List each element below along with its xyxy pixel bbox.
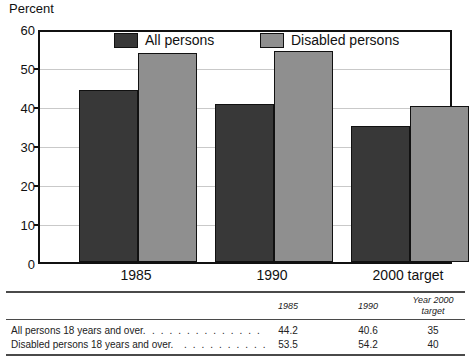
- table-column-header-year-2000-target-line2: target: [400, 306, 466, 317]
- x-tick-label-2000-target: 2000 target: [358, 266, 458, 284]
- table-column-header-1990: 1990: [338, 301, 398, 312]
- table-row-leader-disabled-persons: . . . . . . . . . .: [184, 338, 267, 352]
- table-rule-top: [6, 291, 465, 293]
- bar-all-persons-1985: [79, 90, 138, 262]
- table-row: Disabled persons 18 years and over. . . …: [0, 338, 471, 353]
- y-tick-label-40: 40: [9, 102, 35, 115]
- y-tick-label-30: 30: [9, 141, 35, 154]
- table-rule-middle: [6, 319, 465, 320]
- legend-swatch-disabled-persons: [260, 33, 284, 48]
- bar-all-persons-2000-target: [351, 126, 410, 262]
- x-tick-label-1985: 1985: [96, 266, 176, 284]
- y-tick-label-50: 50: [9, 63, 35, 76]
- y-tick-label-0: 0: [9, 258, 35, 271]
- y-tick-label-60: 60: [9, 24, 35, 37]
- bar-disabled-persons-1990: [274, 51, 333, 262]
- x-tick-label-1990: 1990: [232, 266, 312, 284]
- legend-label-all-persons: All persons: [145, 32, 214, 48]
- table-row-label-disabled-persons: Disabled persons 18 years and over.: [11, 338, 173, 352]
- y-tick-label-10: 10: [9, 219, 35, 232]
- table-row-label-all-persons: All persons 18 years and over.: [11, 324, 146, 338]
- data-table: 1985 1990 Year 2000 target All persons 1…: [0, 288, 471, 364]
- bars-layer: [40, 32, 450, 262]
- table-cell-disabled-persons-2000-target: 40: [400, 338, 466, 352]
- plot-area: [38, 30, 452, 264]
- table-rule-bottom: [6, 354, 465, 356]
- table-column-header-year-2000-target-line1: Year 2000: [400, 295, 466, 306]
- legend-label-disabled-persons: Disabled persons: [291, 32, 399, 48]
- table-column-header-1985: 1985: [258, 301, 318, 312]
- table-cell-disabled-persons-1985: 53.5: [258, 338, 318, 352]
- bar-disabled-persons-2000-target: [410, 106, 469, 262]
- table-cell-all-persons-1990: 40.6: [338, 324, 398, 338]
- bar-disabled-persons-1985: [138, 53, 197, 262]
- x-axis: 1985 1990 2000 target: [38, 266, 452, 288]
- table-row: All persons 18 years and over. . . . . .…: [0, 324, 471, 339]
- table-row-leader-all-persons: . . . . . . . . . . . . .: [152, 324, 261, 338]
- legend-swatch-all-persons: [114, 33, 138, 48]
- y-axis-title: Percent: [9, 2, 54, 16]
- legend-item-all-persons: All persons: [114, 32, 214, 48]
- table-cell-all-persons-2000-target: 35: [400, 324, 466, 338]
- bar-all-persons-1990: [215, 104, 274, 262]
- chart-legend: All persons Disabled persons: [38, 32, 452, 56]
- bar-chart-figure: Percent 60 50 40 30 20 10 0: [0, 0, 471, 288]
- legend-item-disabled-persons: Disabled persons: [260, 32, 399, 48]
- table-cell-all-persons-1985: 44.2: [258, 324, 318, 338]
- y-tick-label-20: 20: [9, 180, 35, 193]
- table-cell-disabled-persons-1990: 54.2: [338, 338, 398, 352]
- table-column-header-year-2000-target: Year 2000 target: [400, 295, 466, 317]
